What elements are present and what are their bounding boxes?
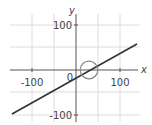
y-tick-neg100: -100 (49, 110, 72, 121)
x-tick-neg100: -100 (21, 77, 44, 88)
x-tick-100: 100 (110, 77, 129, 88)
chart: x y -100 100 0 100 -100 (0, 0, 152, 125)
x-axis-label: x (140, 64, 147, 75)
y-axis-label: y (68, 5, 76, 16)
axes (10, 14, 138, 122)
y-tick-100: 100 (53, 20, 72, 31)
